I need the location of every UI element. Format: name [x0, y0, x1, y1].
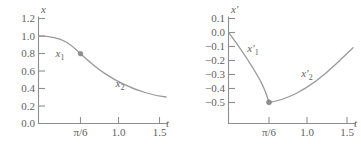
left-x-ticks	[81, 117, 160, 124]
left-ytick-label-6: 0.0	[21, 117, 35, 129]
right-y-ticks	[229, 19, 236, 103]
right-curve-label-x1: x′1	[246, 42, 258, 57]
right-ytick-label-4: −0.3	[205, 68, 225, 80]
right-ytick-label-3: −0.2	[205, 54, 225, 66]
left-xtick-label-1: 1.0	[112, 126, 126, 138]
chart-panel-left: 1.2 1.0 0.8 0.6 0.4 0.2 0.0 π/6 1.0 1.5 …	[0, 0, 180, 144]
left-x-axis-label: t	[166, 117, 170, 129]
right-ytick-label-5: −0.4	[205, 82, 225, 94]
right-x-ticks	[269, 117, 347, 124]
left-ytick-label-1: 1.0	[21, 30, 35, 42]
right-ytick-label-1: 0.0	[211, 26, 225, 38]
left-curve-label-x1: x1	[55, 47, 65, 62]
right-y-axis-label: x′	[230, 3, 239, 15]
figure-two-panel-plot: 1.2 1.0 0.8 0.6 0.4 0.2 0.0 π/6 1.0 1.5 …	[0, 0, 361, 144]
left-ytick-label-2: 0.8	[21, 47, 35, 59]
left-chart-svg: 1.2 1.0 0.8 0.6 0.4 0.2 0.0 π/6 1.0 1.5 …	[0, 0, 180, 144]
right-curve-label-x2: x′2	[300, 67, 312, 82]
right-ytick-label-0: 0.1	[211, 12, 225, 24]
right-ytick-label-2: −0.1	[205, 40, 225, 52]
left-xtick-label-0: π/6	[73, 126, 88, 138]
right-xtick-label-2: 1.5	[340, 126, 354, 138]
left-ytick-label-5: 0.2	[21, 100, 35, 112]
right-x-axis-label: t	[354, 117, 358, 129]
left-ytick-label-4: 0.4	[21, 82, 35, 94]
left-junction-marker	[78, 51, 83, 56]
right-corner-marker	[267, 100, 272, 105]
right-ytick-label-6: −0.5	[205, 96, 225, 108]
left-ytick-label-3: 0.6	[21, 65, 35, 77]
right-chart-svg: 0.1 0.0 −0.1 −0.2 −0.3 −0.4 −0.5 π/6 1.0…	[180, 0, 361, 144]
left-ytick-label-0: 1.2	[21, 12, 35, 24]
chart-panel-right: 0.1 0.0 −0.1 −0.2 −0.3 −0.4 −0.5 π/6 1.0…	[180, 0, 361, 144]
right-xtick-label-0: π/6	[262, 126, 277, 138]
right-xtick-label-1: 1.0	[300, 126, 314, 138]
left-y-axis-label: x	[40, 3, 46, 15]
left-y-ticks	[39, 19, 46, 107]
left-curve-label-x2: x2	[115, 77, 125, 92]
left-xtick-label-2: 1.5	[153, 126, 167, 138]
